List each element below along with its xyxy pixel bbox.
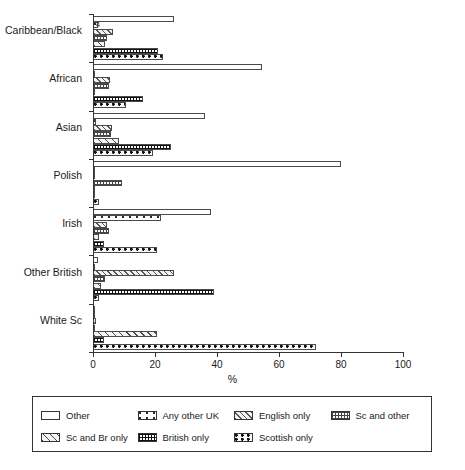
legend-swatch-icon	[331, 411, 350, 420]
bar	[93, 247, 157, 253]
bar	[93, 331, 157, 337]
bar	[93, 289, 214, 295]
x-tick-label: 60	[264, 359, 294, 370]
y-category-label-wrap: Asian	[0, 121, 88, 133]
x-axis-line	[93, 352, 404, 353]
bar	[93, 131, 111, 137]
bar	[93, 241, 104, 247]
bar	[93, 102, 126, 108]
bar	[93, 228, 109, 234]
grouped-bar-chart: Caribbean/BlackAfricanAsianPolishIrishOt…	[0, 0, 465, 470]
x-tick	[403, 352, 404, 357]
legend-item[interactable]: Other	[41, 404, 138, 426]
legend-item[interactable]: Any other UK	[138, 404, 235, 426]
x-tick	[217, 352, 218, 357]
legend-label: Sc and Br only	[66, 432, 128, 443]
legend-label: Scottish only	[259, 432, 313, 443]
legend-item[interactable]: Sc and Br only	[41, 426, 138, 448]
x-tick-label: 20	[140, 359, 170, 370]
y-category-label: White Sc	[0, 314, 88, 326]
legend-swatch-icon	[138, 411, 157, 420]
y-axis-line	[93, 14, 94, 352]
legend-label: Sc and other	[356, 410, 410, 421]
x-tick-label: 40	[202, 359, 232, 370]
x-tick-label: 0	[78, 359, 108, 370]
bar	[93, 161, 341, 167]
bar	[93, 83, 109, 89]
legend-swatch-icon	[41, 411, 60, 420]
legend-item[interactable]: Scottish only	[234, 426, 331, 448]
x-tick	[341, 352, 342, 357]
y-category-label: Asian	[0, 121, 88, 133]
bar	[93, 337, 104, 343]
y-category-label-wrap: Other British	[0, 266, 88, 278]
y-category-label: African	[0, 72, 88, 84]
legend-item[interactable]: British only	[138, 426, 235, 448]
x-tick	[155, 352, 156, 357]
bar	[93, 29, 113, 35]
y-category-label: Irish	[0, 217, 88, 229]
bar	[93, 125, 112, 131]
bar	[93, 138, 119, 144]
legend-swatch-icon	[234, 433, 253, 442]
bar-value-annotation: 4	[96, 21, 100, 28]
bar	[93, 276, 105, 282]
y-category-label-wrap: Polish	[0, 169, 88, 181]
x-tick-label: 100	[388, 359, 418, 370]
y-category-label: Polish	[0, 169, 88, 181]
y-category-label-wrap: White Sc	[0, 314, 88, 326]
x-tick	[93, 352, 94, 357]
legend-label: Any other UK	[163, 410, 220, 421]
bar	[93, 113, 205, 119]
legend-label: English only	[259, 410, 310, 421]
x-axis-title: %	[0, 373, 465, 385]
bar	[93, 96, 143, 102]
bar	[93, 215, 161, 221]
bar	[93, 180, 122, 186]
legend-swatch-icon	[41, 433, 60, 442]
bar	[93, 150, 153, 156]
y-category-label: Other British	[0, 266, 88, 278]
legend-swatch-icon	[138, 433, 157, 442]
x-tick	[279, 352, 280, 357]
bar	[93, 270, 174, 276]
bar	[93, 48, 158, 54]
legend-item[interactable]: Sc and other	[331, 404, 428, 426]
bar	[93, 344, 316, 350]
legend-swatch-icon	[234, 411, 253, 420]
chart-legend: OtherAny other UKEnglish onlySc and othe…	[32, 396, 432, 452]
x-tick-label: 80	[326, 359, 356, 370]
legend-label: British only	[163, 432, 209, 443]
bar	[93, 16, 174, 22]
y-category-label-wrap: Caribbean/Black	[0, 24, 88, 36]
y-category-label: Caribbean/Black	[0, 24, 88, 36]
bar	[93, 54, 163, 60]
bar	[93, 222, 107, 228]
plot-area: 4	[93, 14, 403, 352]
bar	[93, 41, 105, 47]
bar	[93, 77, 110, 83]
y-category-label-wrap: African	[0, 72, 88, 84]
legend-label: Other	[66, 410, 90, 421]
bar	[93, 35, 107, 41]
legend-item[interactable]: English only	[234, 404, 331, 426]
bar	[93, 144, 171, 150]
bar	[93, 64, 262, 70]
bar	[93, 283, 101, 289]
bar	[93, 209, 211, 215]
y-category-label-wrap: Irish	[0, 217, 88, 229]
